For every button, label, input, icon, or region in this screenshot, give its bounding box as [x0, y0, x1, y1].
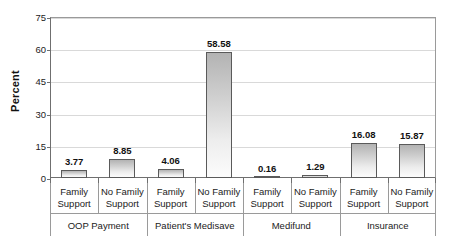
x-axis-category-label-line: No Family	[390, 186, 433, 198]
x-axis-group-separator	[50, 214, 51, 236]
gridline	[51, 115, 435, 116]
x-axis-category-separator	[435, 183, 436, 213]
x-axis-category-label: FamilySupport	[243, 183, 291, 213]
y-axis-tick-mark	[47, 82, 51, 83]
x-axis-category-label-line: Support	[250, 198, 283, 210]
gridline	[51, 82, 435, 83]
gridline	[51, 50, 435, 51]
x-axis-group-separator	[243, 214, 244, 236]
x-axis-category-label-line: Family	[253, 186, 281, 198]
x-axis-group-label: Insurance	[340, 214, 437, 236]
x-axis-category-separator	[340, 183, 341, 213]
bar-chart: Percent 01530456075 3.778.854.0658.580.1…	[0, 0, 454, 241]
y-axis-tick-label: 75	[35, 12, 46, 23]
x-axis-category-label-line: Support	[57, 198, 90, 210]
y-axis-tick-label: 60	[35, 44, 46, 55]
x-axis-category-separator	[388, 183, 389, 213]
x-axis-category-label-line: Support	[299, 198, 332, 210]
gridline	[51, 18, 435, 19]
x-axis-group-separator	[340, 214, 341, 236]
x-axis-category-labels: FamilySupportNo FamilySupportFamilySuppo…	[50, 183, 436, 214]
x-axis-group-label: OOP Payment	[50, 214, 147, 236]
x-axis-group-separator	[435, 214, 436, 236]
x-axis-category-label-line: No Family	[197, 186, 240, 198]
x-axis-category-label-line: Support	[154, 198, 187, 210]
y-axis-title-label: Percent	[9, 70, 21, 112]
x-axis-category-label-line: Family	[350, 186, 378, 198]
x-axis-category-separator	[291, 183, 292, 213]
x-axis-category-separator	[147, 183, 148, 213]
y-axis-tick-label: 15	[35, 140, 46, 151]
x-axis-group-separator	[147, 214, 148, 236]
x-axis-category-label: FamilySupport	[147, 183, 195, 213]
x-axis-category-label: No FamilySupport	[388, 183, 436, 213]
x-axis-category-label: No FamilySupport	[195, 183, 243, 213]
x-axis-category-label-line: No Family	[294, 186, 337, 198]
x-axis-category-label-line: Support	[106, 198, 139, 210]
x-axis-category-label-line: Family	[157, 186, 185, 198]
plot-area	[50, 17, 436, 178]
x-axis-group-label: Patient's Medisave	[147, 214, 244, 236]
y-axis-tick-mark	[47, 147, 51, 148]
y-axis-tick-labels: 01530456075	[24, 17, 46, 178]
x-axis-category-separator	[243, 183, 244, 213]
x-axis-category-separator	[195, 183, 196, 213]
x-axis-category-label: FamilySupport	[340, 183, 388, 213]
x-axis-category-label-line: Support	[395, 198, 428, 210]
x-axis-category-separator	[98, 183, 99, 213]
x-axis-group-labels: OOP PaymentPatient's MedisaveMedifundIns…	[50, 214, 436, 238]
y-axis-tick-mark	[47, 18, 51, 19]
x-axis-group-label: Medifund	[243, 214, 340, 236]
y-axis-tick-label: 0	[41, 173, 46, 184]
y-axis-tick-mark	[47, 50, 51, 51]
x-axis-category-label: No FamilySupport	[98, 183, 146, 213]
x-axis-category-label: FamilySupport	[50, 183, 98, 213]
x-axis-category-label-line: No Family	[101, 186, 144, 198]
x-axis-category-label-line: Family	[60, 186, 88, 198]
y-axis-tick-mark	[47, 115, 51, 116]
x-axis-category-label-line: Support	[202, 198, 235, 210]
y-axis-tick-label: 45	[35, 76, 46, 87]
x-axis-category-label-line: Support	[347, 198, 380, 210]
y-axis-tick-label: 30	[35, 108, 46, 119]
x-axis-category-separator	[50, 183, 51, 213]
x-axis-category-label: No FamilySupport	[291, 183, 339, 213]
gridline	[51, 147, 435, 148]
